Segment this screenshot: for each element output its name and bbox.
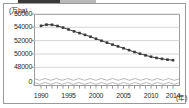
axis-ticks-layer xyxy=(0,0,189,108)
chart-figure: (万ha) 48000500005200054000560000 1990199… xyxy=(0,0,189,108)
